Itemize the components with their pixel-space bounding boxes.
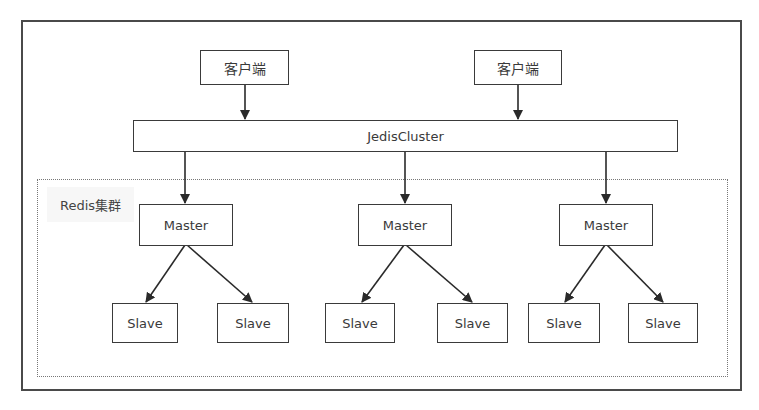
slave-node-1: Slave bbox=[112, 303, 178, 343]
master-node-2: Master bbox=[358, 204, 452, 246]
slave-node-5: Slave bbox=[528, 303, 600, 343]
slave-node-2: Slave bbox=[217, 303, 289, 343]
master-node-1: Master bbox=[139, 204, 233, 246]
jedis-cluster-node: JedisCluster bbox=[133, 120, 678, 152]
slave-node-3: Slave bbox=[325, 303, 395, 343]
client-node-1: 客户端 bbox=[200, 50, 289, 85]
client-node-2: 客户端 bbox=[474, 50, 562, 85]
slave-node-4: Slave bbox=[437, 303, 508, 343]
master-node-3: Master bbox=[559, 204, 653, 246]
slave-node-6: Slave bbox=[628, 303, 698, 343]
